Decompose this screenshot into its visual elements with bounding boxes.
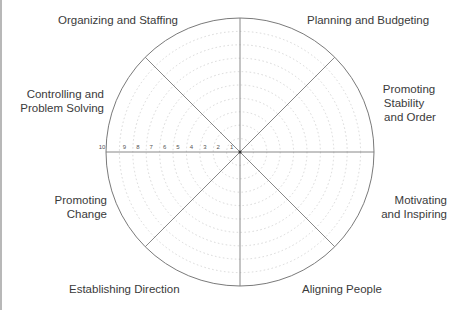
label-controlling: Controlling and Problem Solving — [4, 87, 104, 115]
wheel-diagram: 10987654321 — [0, 0, 460, 310]
svg-text:7: 7 — [150, 144, 154, 150]
svg-text:6: 6 — [163, 144, 167, 150]
label-motivating: Motivating and Inspiring — [370, 193, 447, 221]
svg-text:8: 8 — [136, 144, 140, 150]
center-point — [239, 151, 242, 154]
label-establishing-direction: Establishing Direction — [69, 282, 180, 296]
label-organizing-staffing: Organizing and Staffing — [58, 13, 178, 27]
label-aligning-people: Aligning People — [302, 282, 382, 296]
svg-text:2: 2 — [217, 144, 221, 150]
label-promoting-change: Promoting Change — [30, 193, 107, 221]
svg-text:4: 4 — [190, 144, 194, 150]
svg-text:5: 5 — [176, 144, 180, 150]
label-promoting-stability: Promoting Stability and Order — [373, 82, 445, 124]
svg-text:9: 9 — [123, 144, 127, 150]
svg-text:10: 10 — [99, 144, 106, 150]
svg-text:3: 3 — [203, 144, 207, 150]
label-planning-budgeting: Planning and Budgeting — [307, 13, 429, 27]
